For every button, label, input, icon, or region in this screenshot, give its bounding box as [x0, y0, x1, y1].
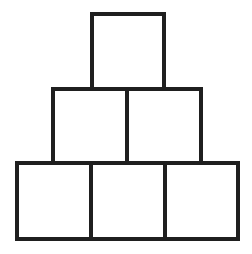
- pyramid-box-row3-col3: [163, 161, 240, 241]
- pyramid-box-row3-col1: [15, 161, 93, 241]
- pyramid-box-row2-col2: [125, 87, 203, 165]
- pyramid-box-row1-col1: [90, 12, 166, 91]
- pyramid-box-row2-col1: [51, 87, 129, 165]
- block-pyramid-diagram: [0, 0, 252, 254]
- pyramid-box-row3-col2: [89, 161, 167, 241]
